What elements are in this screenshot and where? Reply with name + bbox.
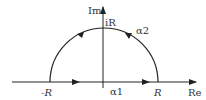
arc-label: α2 (136, 25, 149, 36)
segment-label: α1 (110, 86, 123, 97)
arrow-segment-left (72, 79, 80, 85)
y-axis-label: Im (88, 5, 102, 16)
right-point-label: R (153, 87, 162, 98)
x-axis-label: Re (188, 87, 202, 98)
arrow-arc-right (125, 33, 132, 39)
arrow-segment-right (142, 79, 150, 85)
arc-alpha2 (50, 28, 158, 82)
left-point-label: -R (41, 87, 52, 98)
top-point-label: iR (105, 17, 116, 28)
contour-diagram: Im Re iR -R R α1 α2 (0, 0, 206, 100)
